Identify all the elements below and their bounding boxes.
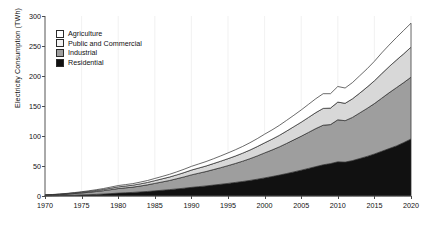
y-axis-tick-label: 100 [29, 132, 41, 141]
y-axis-tick-label: 250 [29, 42, 41, 51]
x-axis-tick-mark [82, 196, 83, 199]
y-axis-tick-mark [42, 46, 45, 47]
y-axis-tick-label: 50 [33, 162, 41, 171]
x-axis-tick-label: 2020 [403, 201, 419, 210]
x-axis-tick-label: 2005 [293, 201, 309, 210]
stacked-area-chart-figure: Electricity Consumption (TWh) 0501001502… [0, 0, 424, 225]
y-axis-label: Electricity Consumption (TWh) [13, 0, 25, 133]
y-axis-tick-mark [42, 16, 45, 17]
x-axis-tick-mark [118, 196, 119, 199]
legend-item: Industrial [56, 48, 142, 58]
x-axis-tick-mark [301, 196, 302, 199]
legend-swatch-icon [56, 30, 64, 38]
x-axis-tick-mark [155, 196, 156, 199]
legend-item: Public and Commercial [56, 39, 142, 49]
legend-swatch-icon [56, 59, 64, 67]
x-axis-tick-mark [45, 196, 46, 199]
y-axis-tick-mark [42, 136, 45, 137]
legend-item-label: Public and Commercial [68, 39, 142, 49]
x-axis-tick-label: 2010 [330, 201, 346, 210]
y-axis-tick-label: 300 [29, 12, 41, 21]
legend-item-label: Agriculture [68, 29, 102, 39]
x-axis-tick-mark [411, 196, 412, 199]
legend-item: Agriculture [56, 29, 142, 39]
x-axis-tick-label: 1980 [110, 201, 126, 210]
legend-item-label: Industrial [68, 48, 97, 58]
x-axis-tick-label: 2015 [366, 201, 382, 210]
x-axis-tick-mark [191, 196, 192, 199]
legend-swatch-icon [56, 39, 64, 47]
chart-legend: AgriculturePublic and CommercialIndustri… [56, 29, 142, 67]
x-axis-tick-label: 1990 [183, 201, 199, 210]
y-axis-tick-label: 150 [29, 102, 41, 111]
x-axis-tick-label: 2000 [257, 201, 273, 210]
legend-swatch-icon [56, 49, 64, 57]
x-axis-tick-mark [338, 196, 339, 199]
y-axis-tick-label: 200 [29, 72, 41, 81]
legend-item: Residential [56, 58, 142, 68]
x-axis-tick-label: 1985 [147, 201, 163, 210]
x-axis-tick-mark [374, 196, 375, 199]
x-axis-tick-label: 1995 [220, 201, 236, 210]
y-axis-tick-label: 0 [37, 192, 41, 201]
y-axis-tick-mark [42, 76, 45, 77]
x-axis-tick-label: 1975 [74, 201, 90, 210]
legend-item-label: Residential [68, 58, 104, 68]
x-axis-tick-mark [265, 196, 266, 199]
x-axis-tick-label: 1970 [37, 201, 53, 210]
y-axis-tick-mark [42, 106, 45, 107]
y-axis-tick-mark [42, 166, 45, 167]
x-axis-tick-mark [228, 196, 229, 199]
